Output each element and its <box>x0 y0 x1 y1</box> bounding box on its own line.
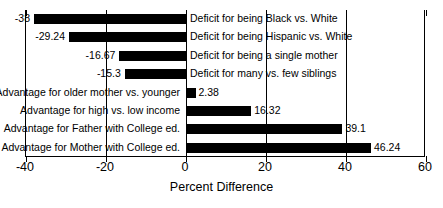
bar-value-label: -16.67 <box>86 48 116 63</box>
x-tick-label--40: -40 <box>0 159 55 175</box>
x-tick-label-0: 0 <box>155 159 215 175</box>
x-tick-label--20: -20 <box>75 159 135 175</box>
bar-category-label: Advantage for Father with College ed. <box>4 121 180 136</box>
bar-value-label: 39.1 <box>345 121 365 136</box>
bar-value-label: -38 <box>15 11 30 26</box>
bar-row: -16.67Deficit for being a single mother <box>26 47 424 65</box>
bar-category-label: Deficit for many vs. few siblings <box>190 66 336 81</box>
bar-row: -15.3Deficit for many vs. few siblings <box>26 65 424 83</box>
bar-row: 2.38Advantage for older mother vs. young… <box>26 84 424 102</box>
bar <box>119 51 186 61</box>
bar <box>125 69 186 79</box>
bar <box>69 32 186 42</box>
bar-row: 46.24Advantage for Mother with College e… <box>26 139 424 157</box>
bar <box>186 124 342 134</box>
bar <box>186 88 196 98</box>
bar-value-label: 46.24 <box>374 140 400 155</box>
x-tick-label-20: 20 <box>235 159 295 175</box>
plot-area: -38Deficit for being Black vs. White-29.… <box>25 10 425 157</box>
bar-value-label: 2.38 <box>199 85 219 100</box>
bar-value-label: -29.24 <box>35 29 65 44</box>
bar-chart: -38Deficit for being Black vs. White-29.… <box>0 0 443 208</box>
x-axis-title: Percent Difference <box>0 179 443 195</box>
bar <box>186 143 371 153</box>
x-tick-top-60 <box>426 10 427 16</box>
bar-category-label: Deficit for being Hispanic vs. White <box>190 29 352 44</box>
bar-value-label: -15.3 <box>97 66 121 81</box>
x-tick-label-60: 60 <box>395 159 443 175</box>
bar <box>186 106 251 116</box>
bar-row: -29.24Deficit for being Hispanic vs. Whi… <box>26 28 424 46</box>
bar-category-label: Advantage for high vs. low income <box>20 103 180 118</box>
bar-category-label: Deficit for being Black vs. White <box>190 11 338 26</box>
bar-value-label: 16.32 <box>254 103 280 118</box>
bar-category-label: Deficit for being a single mother <box>190 48 338 63</box>
bar-row: 39.1Advantage for Father with College ed… <box>26 120 424 138</box>
bar-category-label: Advantage for Mother with College ed. <box>1 140 180 155</box>
bar <box>34 14 186 24</box>
bar-row: 16.32Advantage for high vs. low income <box>26 102 424 120</box>
bar-category-label: Advantage for older mother vs. younger <box>0 85 180 100</box>
x-tick-label-40: 40 <box>315 159 375 175</box>
bar-row: -38Deficit for being Black vs. White <box>26 10 424 28</box>
